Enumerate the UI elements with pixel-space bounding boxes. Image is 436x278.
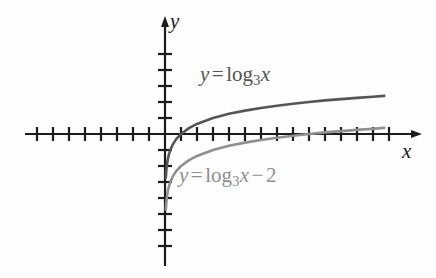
label-upper-argument: x	[261, 62, 270, 86]
label-lower-variable: y	[179, 163, 188, 187]
label-lower-constant: 2	[266, 163, 277, 187]
label-upper-function: log	[226, 62, 253, 86]
y-axis-group	[158, 26, 172, 266]
x-axis-label: x	[402, 139, 411, 164]
y-axis-label: y	[170, 9, 179, 34]
label-upper-base: 3	[253, 72, 261, 88]
label-lower-function: log	[205, 163, 232, 187]
label-upper-variable: y	[200, 62, 209, 86]
label-lower-base: 3	[232, 173, 240, 189]
label-lower-argument: x	[240, 163, 249, 187]
label-lower-operator: −	[249, 163, 266, 187]
label-upper-equals: =	[209, 62, 226, 86]
curve-label-log3x: y=log3x	[200, 62, 270, 89]
coordinate-plane	[0, 0, 436, 278]
curve-label-log3x-minus-2: y=log3x−2	[179, 163, 276, 190]
label-lower-equals: =	[188, 163, 205, 187]
logarithmic-graph-figure: y=log3x y=log3x−2 y x	[0, 0, 436, 278]
